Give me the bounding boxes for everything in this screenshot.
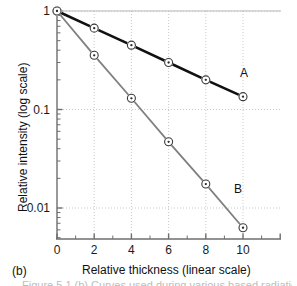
series-label-b: B [234,182,242,196]
data-point-a-2 [90,24,98,32]
x-tick-label-10: 10 [228,244,258,256]
data-point-a-4 [127,41,135,49]
data-point-b-8 [202,180,210,188]
panel-label: (b) [12,264,27,278]
data-point-b-4 [127,94,135,102]
y-axis-title: Relative intensity (log scale) [16,63,30,212]
data-point-a-6 [165,58,173,66]
data-point-b-10 [239,224,247,232]
series-line-b [57,11,243,228]
x-tick-label-8: 8 [191,244,221,256]
data-point-a-10 [239,93,247,101]
data-point-b-0 [53,7,61,15]
x-tick-label-0: 0 [42,244,72,256]
data-point-a-8 [202,76,210,84]
x-axis-title: Relative thickness (linear scale) [82,263,251,277]
series-label-a: A [240,66,248,80]
data-point-b-2 [90,51,98,59]
series-line-a [57,11,243,97]
figure-panel-b: 1 0.1 0.01 0 2 4 6 8 10 Relative intensi… [0,0,297,286]
caption-fragment: Figure 5.1 (b) Curves used during variou… [22,280,292,286]
x-tick-label-2: 2 [79,244,109,256]
y-tick-label-1: 1 [8,5,50,17]
x-tick-label-4: 4 [116,244,146,256]
x-tick-label-6: 6 [154,244,184,256]
data-point-b-6 [165,138,173,146]
